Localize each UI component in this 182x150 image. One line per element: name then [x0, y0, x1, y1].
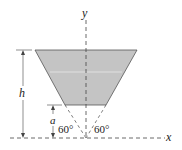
- h-arrow-bottom: [21, 133, 25, 138]
- a-label: a: [50, 114, 56, 126]
- left-angle-label: 60°: [58, 123, 73, 135]
- a-arrow-top: [51, 105, 55, 110]
- y-axis-label: y: [81, 6, 88, 20]
- h-label: h: [19, 86, 25, 100]
- x-axis-label: x: [165, 130, 172, 144]
- h-arrow-top: [21, 50, 25, 55]
- diagram-canvas: h a 60° 60° y x: [0, 0, 182, 150]
- right-angle-label: 60°: [94, 123, 109, 135]
- a-arrow-bottom: [51, 133, 55, 138]
